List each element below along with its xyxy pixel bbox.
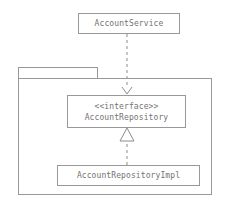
stereotype-interface: <<interface>> bbox=[95, 101, 159, 112]
uml-class-diagram: AccountService <<interface>> AccountRepo… bbox=[0, 0, 225, 206]
class-name-account-service: AccountService bbox=[95, 18, 164, 29]
class-box-account-service[interactable]: AccountService bbox=[78, 13, 180, 34]
class-name-account-repository-impl: AccountRepositoryImpl bbox=[77, 170, 180, 181]
package-tab bbox=[18, 67, 98, 78]
class-name-account-repository: AccountRepository bbox=[85, 112, 169, 123]
class-box-account-repository-impl[interactable]: AccountRepositoryImpl bbox=[57, 165, 200, 186]
class-box-account-repository[interactable]: <<interface>> AccountRepository bbox=[67, 95, 186, 128]
